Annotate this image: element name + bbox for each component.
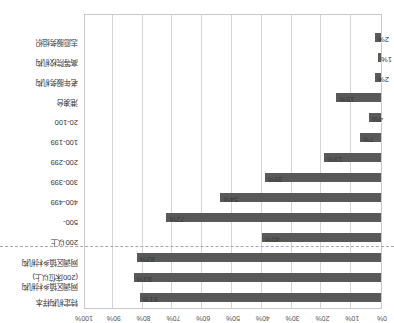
x-axis-ticks: 0%10%20%30%40%50%60%70%80%90%100%: [84, 309, 382, 323]
bar-row: 39%300-399: [0, 167, 394, 187]
bar-row: 2%老年服务机构: [0, 67, 394, 87]
bar-value-label: 39%: [265, 175, 283, 184]
x-axis-tick-label: 0%: [377, 315, 387, 322]
bar-value-label: 81%: [140, 295, 158, 304]
category-label: 20-100: [0, 118, 78, 127]
bar-value-label: 4%: [369, 115, 383, 124]
x-axis-tick-label: 20%: [315, 315, 329, 322]
category-label: 特定机构样本: [0, 298, 78, 307]
category-label: 300-399: [0, 178, 78, 187]
bar-value-label: 54%: [220, 195, 238, 204]
x-axis-tick-label: 40%: [256, 315, 270, 322]
category-label: 老年服务机构: [0, 78, 78, 87]
category-label: 志愿服务组织: [0, 38, 78, 47]
bar-row: 54%400-499: [0, 187, 394, 207]
bar-chart: 0%10%20%30%40%50%60%70%80%90%100% 81%特定机…: [0, 0, 394, 323]
bar-row: 82%网调区镇乡村机构: [0, 247, 394, 267]
x-axis-tick-label: 90%: [107, 315, 121, 322]
category-label: 100-199: [0, 138, 78, 147]
category-label: 500-: [0, 218, 78, 227]
x-axis-tick-label: 70%: [166, 315, 180, 322]
bar-value-label: 15%: [336, 95, 354, 104]
bar-row: 2%志愿服务组织: [0, 27, 394, 47]
bar-rows: 81%特定机构样本83%网调区镇乡村机构 (200床位以上)82%网调区镇乡村机…: [0, 14, 394, 309]
bar-row: 19%200-299: [0, 147, 394, 167]
bar-value-label: 7%: [360, 135, 374, 144]
x-axis-tick-label: 60%: [196, 315, 210, 322]
category-label: 高等院校机构: [0, 58, 78, 67]
bar-row: 72%500-: [0, 207, 394, 227]
bar-value-label: 2%: [375, 35, 389, 44]
category-label: 400-499: [0, 198, 78, 207]
bar-value-label: 72%: [166, 215, 184, 224]
chart-stage: 0%10%20%30%40%50%60%70%80%90%100% 81%特定机…: [0, 0, 394, 323]
bar: [220, 193, 381, 202]
category-label: 网调区镇乡村机构: [0, 258, 78, 267]
bar-row: 7%100-199: [0, 127, 394, 147]
bar-value-label: 2%: [375, 75, 389, 84]
group-separator: [0, 246, 394, 247]
x-axis-tick-label: 30%: [286, 315, 300, 322]
bar-value-label: 83%: [134, 275, 152, 284]
x-axis-tick-label: 10%: [345, 315, 359, 322]
bar-value-label: 40%: [262, 235, 280, 244]
bar-row: 40%200以上: [0, 227, 394, 247]
x-axis-tick-label: 80%: [137, 315, 151, 322]
category-label: 网调区镇乡村机构 (200床位以上): [0, 273, 78, 291]
bar: [166, 213, 381, 222]
bar-row: 4%20-100: [0, 107, 394, 127]
bar-row: 1%高等院校机构: [0, 47, 394, 67]
bar-value-label: 19%: [324, 155, 342, 164]
bar: [134, 273, 381, 282]
bar-row: 15%港澳台: [0, 87, 394, 107]
x-axis-tick-label: 50%: [226, 315, 240, 322]
bar: [140, 293, 381, 302]
category-label: 港澳台: [0, 98, 78, 107]
bar-value-label: 82%: [137, 255, 155, 264]
category-label: 200-299: [0, 158, 78, 167]
bar: [137, 253, 381, 262]
bar-row: 83%网调区镇乡村机构 (200床位以上): [0, 267, 394, 287]
x-axis-tick-label: 100%: [75, 315, 93, 322]
bar-value-label: 1%: [378, 55, 392, 64]
